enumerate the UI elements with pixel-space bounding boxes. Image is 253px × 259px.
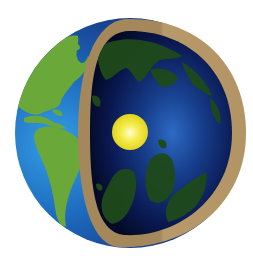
earth-illustration: Earth cross-section (0, 0, 253, 259)
earth-cross-section-graphic (0, 0, 253, 259)
inner-core (112, 114, 148, 150)
